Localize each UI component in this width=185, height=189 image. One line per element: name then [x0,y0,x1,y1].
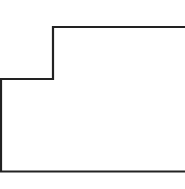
outline-path [1,27,185,172]
stepped-outline-diagram [0,0,185,189]
